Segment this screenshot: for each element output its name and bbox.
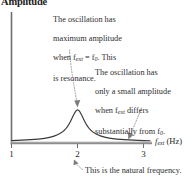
x-tick-label-3: 3 bbox=[137, 149, 151, 159]
annotation-resonance-line-4: = f bbox=[83, 53, 95, 62]
annotation-off-resonance-line-4: differs bbox=[125, 106, 149, 115]
annotation-off-resonance-line-1: The oscillation has bbox=[95, 68, 158, 77]
annotation-resonance-line-1: The oscillation has bbox=[53, 15, 116, 24]
annotation-off-resonance-line-6: . bbox=[163, 127, 165, 136]
x-axis-symbol-subscript: ext bbox=[157, 140, 164, 146]
x-tick-label-1: 1 bbox=[5, 149, 19, 159]
x-tick-label-2: 2 bbox=[71, 149, 85, 159]
annotation-off-resonance-sub-ext: ext bbox=[118, 109, 125, 115]
annotation-off-resonance-line-3: when f bbox=[95, 106, 118, 115]
annotation-resonance-line-6: is resonance. bbox=[53, 74, 96, 83]
annotation-resonance-line-3: when f bbox=[53, 53, 76, 62]
annotation-off-resonance: The oscillation has only a small amplitu… bbox=[95, 58, 187, 139]
leader-to-peak-arrowhead bbox=[74, 100, 80, 108]
leader-natural-frequency-arrowhead bbox=[73, 159, 78, 165]
resonance-curve-figure: Amplitude fext (Hz) 1 2 3 The oscillatio… bbox=[0, 0, 192, 193]
annotation-off-resonance-line-5: substantially from f bbox=[95, 127, 160, 136]
y-axis-title: Amplitude bbox=[1, 0, 47, 7]
annotation-off-resonance-line-2: only a small amplitude bbox=[95, 87, 171, 96]
annotation-resonance-sub-ext: ext bbox=[76, 56, 83, 62]
annotation-natural-frequency: This is the natural frequency. bbox=[85, 166, 185, 176]
annotation-resonance-line-2: maximum amplitude bbox=[53, 34, 122, 43]
